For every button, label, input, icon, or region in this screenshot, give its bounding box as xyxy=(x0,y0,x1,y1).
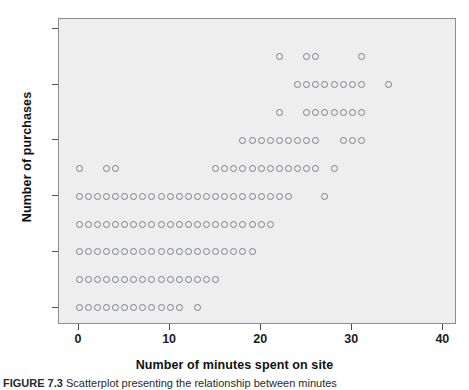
data-point xyxy=(185,193,192,200)
data-point xyxy=(85,276,92,283)
data-point xyxy=(303,53,310,60)
data-point xyxy=(258,221,265,228)
data-point xyxy=(258,165,265,172)
data-point xyxy=(121,221,128,228)
data-point xyxy=(85,248,92,255)
data-point xyxy=(94,276,101,283)
data-point xyxy=(203,193,210,200)
data-point xyxy=(331,109,338,116)
data-point xyxy=(76,276,83,283)
data-point xyxy=(203,221,210,228)
data-point xyxy=(139,248,146,255)
data-point xyxy=(267,137,274,144)
x-axis-tick-label: 30 xyxy=(344,333,358,346)
data-point xyxy=(112,165,119,172)
data-point xyxy=(103,248,110,255)
data-point xyxy=(176,248,183,255)
data-point xyxy=(303,165,310,172)
data-point xyxy=(239,221,246,228)
data-point xyxy=(294,81,301,88)
data-point xyxy=(212,165,219,172)
data-point xyxy=(139,221,146,228)
data-point xyxy=(239,165,246,172)
data-point xyxy=(276,193,283,200)
data-point xyxy=(148,193,155,200)
data-point xyxy=(285,165,292,172)
data-point xyxy=(94,221,101,228)
x-axis-tick-label: 10 xyxy=(162,333,176,346)
data-point xyxy=(121,304,128,311)
data-point xyxy=(221,248,228,255)
data-point xyxy=(94,193,101,200)
data-point xyxy=(212,221,219,228)
x-axis-tick xyxy=(351,324,352,330)
data-point xyxy=(203,276,210,283)
data-point xyxy=(239,137,246,144)
data-point xyxy=(312,165,319,172)
scatter-plot-figure: 0246810 010203040 Number of minutes spen… xyxy=(0,0,469,390)
data-point xyxy=(148,304,155,311)
data-points-layer xyxy=(59,19,455,323)
data-point xyxy=(276,109,283,116)
data-point xyxy=(167,276,174,283)
data-point xyxy=(76,304,83,311)
data-point xyxy=(167,248,174,255)
data-point xyxy=(249,248,256,255)
data-point xyxy=(230,221,237,228)
data-point xyxy=(358,109,365,116)
data-point xyxy=(276,165,283,172)
data-point xyxy=(249,221,256,228)
data-point xyxy=(321,81,328,88)
data-point xyxy=(103,165,110,172)
data-point xyxy=(258,193,265,200)
data-point xyxy=(167,193,174,200)
plot-area xyxy=(58,18,456,324)
data-point xyxy=(358,53,365,60)
data-point xyxy=(358,137,365,144)
data-point xyxy=(176,221,183,228)
data-point xyxy=(176,276,183,283)
data-point xyxy=(148,248,155,255)
data-point xyxy=(167,221,174,228)
data-point xyxy=(85,193,92,200)
data-point xyxy=(85,304,92,311)
data-point xyxy=(194,248,201,255)
data-point xyxy=(112,221,119,228)
data-point xyxy=(340,109,347,116)
data-point xyxy=(176,193,183,200)
data-point xyxy=(139,276,146,283)
data-point xyxy=(203,248,210,255)
data-point xyxy=(349,137,356,144)
data-point xyxy=(249,137,256,144)
data-point xyxy=(276,53,283,60)
data-point xyxy=(312,109,319,116)
data-point xyxy=(312,137,319,144)
x-axis-tick xyxy=(442,324,443,330)
data-point xyxy=(76,193,83,200)
data-point xyxy=(276,137,283,144)
data-point xyxy=(94,304,101,311)
data-point xyxy=(267,193,274,200)
x-axis-label: Number of minutes spent on site xyxy=(0,358,469,372)
data-point xyxy=(185,276,192,283)
data-point xyxy=(130,248,137,255)
data-point xyxy=(112,304,119,311)
data-point xyxy=(230,193,237,200)
data-point xyxy=(130,221,137,228)
data-point xyxy=(312,53,319,60)
data-point xyxy=(158,276,165,283)
figure-caption-number: FIGURE 7.3 xyxy=(3,379,63,389)
data-point xyxy=(85,221,92,228)
data-point xyxy=(385,81,392,88)
data-point xyxy=(321,109,328,116)
data-point xyxy=(103,193,110,200)
data-point xyxy=(239,193,246,200)
data-point xyxy=(139,304,146,311)
data-point xyxy=(194,304,201,311)
data-point xyxy=(148,276,155,283)
data-point xyxy=(249,193,256,200)
data-point xyxy=(358,81,365,88)
data-point xyxy=(303,81,310,88)
data-point xyxy=(230,165,237,172)
data-point xyxy=(294,137,301,144)
